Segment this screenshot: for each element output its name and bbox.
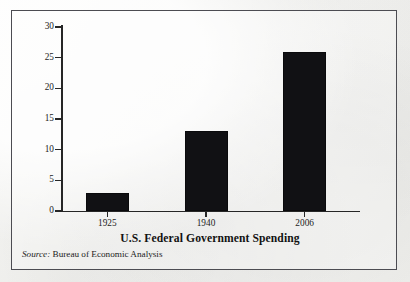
y-tick-0: [55, 210, 62, 211]
x-tick-label-1940: 1940: [176, 219, 236, 228]
y-tick-label-5: 5: [14, 175, 54, 184]
y-tick-15: [55, 118, 62, 119]
y-tick-label-10: 10: [14, 145, 54, 154]
y-tick-20: [55, 88, 62, 89]
source-note: Source: Bureau of Economic Analysis: [22, 249, 163, 259]
bar-1925: [86, 193, 129, 211]
x-tick-2006: [304, 211, 305, 217]
y-tick-label-30: 30: [14, 22, 54, 31]
x-tick-label-1925: 1925: [77, 219, 137, 228]
bar-2006: [283, 52, 326, 211]
y-tick-label-20: 20: [14, 83, 54, 92]
x-tick-1940: [205, 211, 206, 217]
y-tick-5: [55, 180, 62, 181]
y-tick-25: [55, 57, 62, 58]
x-axis-title: U.S. Federal Government Spending: [62, 232, 358, 245]
y-tick-30: [55, 26, 62, 27]
source-text: Bureau of Economic Analysis: [50, 249, 162, 259]
y-tick-label-0: 0: [14, 206, 54, 215]
bar-1940: [185, 131, 228, 211]
y-tick-10: [55, 149, 62, 150]
y-tick-label-25: 25: [14, 53, 54, 62]
y-tick-label-15: 15: [14, 114, 54, 123]
x-tick-1925: [107, 211, 108, 217]
x-tick-label-2006: 2006: [275, 219, 335, 228]
source-label: Source:: [22, 249, 50, 259]
